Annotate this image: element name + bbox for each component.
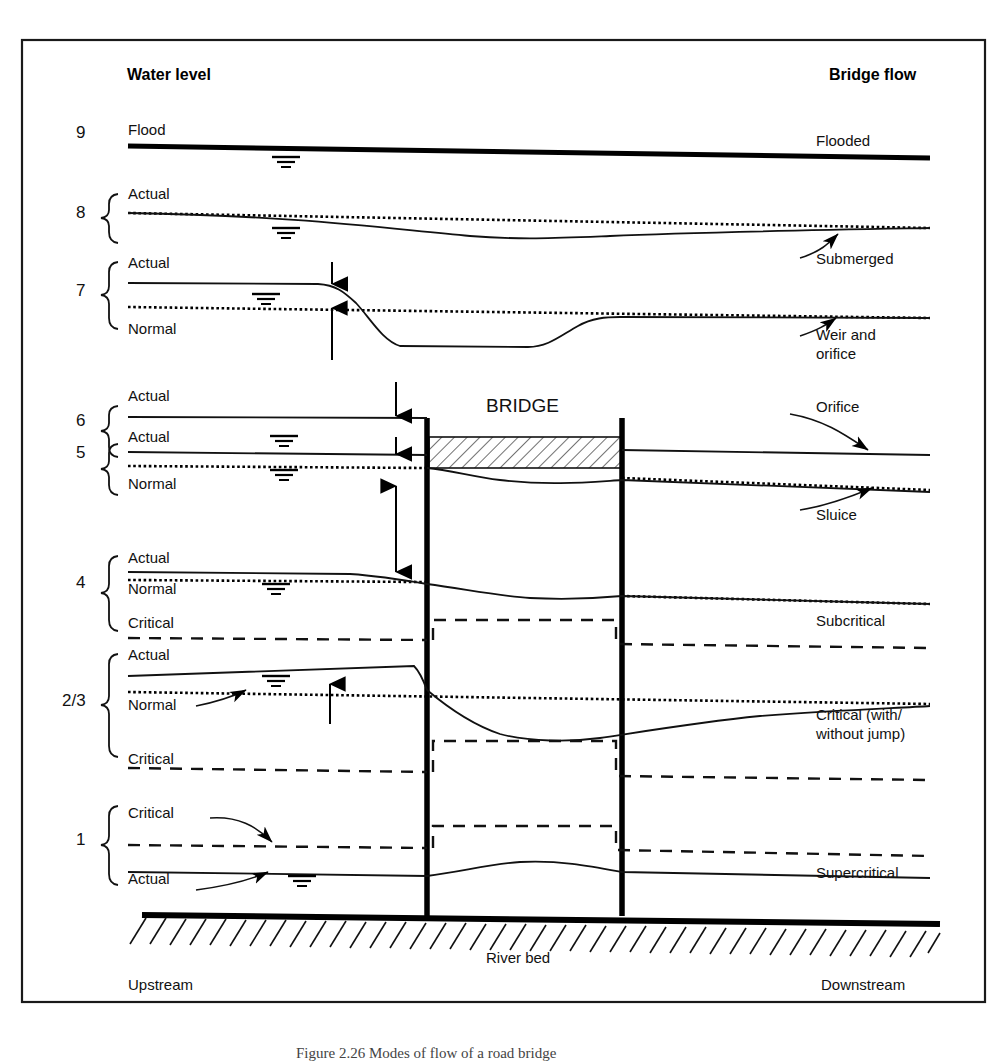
figure-caption: Figure 2.26 Modes of flow of a road brid… bbox=[296, 1045, 557, 1061]
level-4-label-normal: Normal bbox=[128, 580, 176, 597]
level-number-1: 1 bbox=[76, 830, 85, 849]
header-bridge-flow: Bridge flow bbox=[829, 66, 917, 83]
modes-of-flow-diagram: Water level Bridge flow 9 Flood Flooded … bbox=[0, 0, 1008, 1064]
flow-label-weir-orifice-line2: orifice bbox=[816, 345, 856, 362]
level-4-label-actual: Actual bbox=[128, 549, 170, 566]
flow-label-critical-line1: Critical (with/ bbox=[816, 706, 903, 723]
level-7-label-actual: Actual bbox=[128, 254, 170, 271]
flow-label-critical-line2: without jump) bbox=[815, 725, 905, 742]
river-bed-label: River bed bbox=[486, 949, 550, 966]
level-2-3-label-critical: Critical bbox=[128, 750, 174, 767]
flow-label-submerged: Submerged bbox=[816, 250, 894, 267]
level-1-label-critical: Critical bbox=[128, 804, 174, 821]
figure-container: Water level Bridge flow 9 Flood Flooded … bbox=[0, 0, 1008, 1064]
footer-upstream: Upstream bbox=[128, 976, 193, 993]
level-number-6: 6 bbox=[76, 411, 85, 430]
level-7-label-normal: Normal bbox=[128, 320, 176, 337]
level-number-8: 8 bbox=[76, 203, 85, 222]
footer-downstream: Downstream bbox=[821, 976, 905, 993]
level-number-5: 5 bbox=[76, 443, 85, 462]
bridge-label: BRIDGE bbox=[486, 395, 559, 416]
level-number-4: 4 bbox=[76, 573, 85, 592]
level-2-3-label-actual: Actual bbox=[128, 646, 170, 663]
flow-label-supercritical: Supercritical bbox=[816, 864, 899, 881]
level-number-2-3: 2/3 bbox=[62, 691, 86, 710]
bridge-deck-hatched bbox=[429, 437, 621, 468]
header-water-level: Water level bbox=[127, 66, 211, 83]
level-5-label-actual: Actual bbox=[128, 428, 170, 445]
flow-label-sluice: Sluice bbox=[816, 506, 857, 523]
level-4-label-critical: Critical bbox=[128, 614, 174, 631]
level-9-label-flood: Flood bbox=[128, 121, 166, 138]
level-5-label-normal: Normal bbox=[128, 475, 176, 492]
level-8-label-actual: Actual bbox=[128, 185, 170, 202]
flow-label-weir-orifice-line1: Weir and bbox=[816, 326, 876, 343]
flow-label-flooded: Flooded bbox=[816, 132, 870, 149]
level-number-7: 7 bbox=[76, 281, 85, 300]
level-2-3-label-normal: Normal bbox=[128, 696, 176, 713]
flow-label-subcritical: Subcritical bbox=[816, 612, 885, 629]
flow-label-orifice: Orifice bbox=[816, 398, 859, 415]
level-6-label-actual: Actual bbox=[128, 387, 170, 404]
level-6-actual-line-upstream bbox=[128, 417, 427, 418]
level-number-9: 9 bbox=[76, 123, 85, 142]
